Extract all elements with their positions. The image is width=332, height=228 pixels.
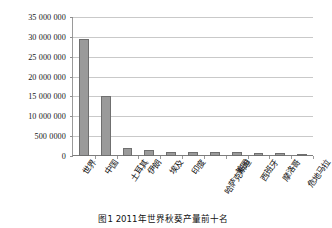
bar xyxy=(188,152,198,156)
bar xyxy=(232,152,242,156)
y-axis-labels: 35 000 00030 000 00025 000 00020 000 000… xyxy=(0,17,70,156)
figure-caption: 图1 2011年世界秋葵产量前十名 xyxy=(0,214,326,224)
x-axis-category-label: 埃及 xyxy=(168,157,185,176)
y-axis-tick-label: 25 000 000 xyxy=(28,52,66,61)
x-axis-category-label: 西班牙 xyxy=(259,157,281,182)
x-axis-category-label: 摩洛哥 xyxy=(281,157,303,182)
bar-series xyxy=(73,17,313,156)
x-axis-tick xyxy=(313,156,314,159)
y-axis-tick-label: 0 xyxy=(62,152,66,161)
y-axis-tick-label: 20 000 000 xyxy=(28,72,66,81)
bar xyxy=(166,152,176,156)
y-axis-tick-label: 15 000 000 xyxy=(28,92,66,101)
bar xyxy=(144,150,154,156)
bar xyxy=(79,39,89,156)
x-axis-labels: 世界中国土耳其伊朗埃及印度哈萨克斯坦美国西班牙摩洛哥危地马拉 xyxy=(73,157,313,209)
x-axis-category-label: 危地马拉 xyxy=(306,157,332,189)
bar xyxy=(275,153,285,156)
x-axis-category-label: 伊朗 xyxy=(146,157,163,176)
bar xyxy=(123,148,133,156)
y-axis-tick-label: 10 000 000 xyxy=(28,112,66,121)
bar xyxy=(254,153,264,156)
y-axis-tick-label: 500 0000 xyxy=(34,132,66,141)
x-axis-category-label: 世界 xyxy=(81,157,98,176)
y-axis-tick-label: 30 000 000 xyxy=(28,32,66,41)
bar xyxy=(101,96,111,156)
x-axis-category-label: 印度 xyxy=(190,157,207,176)
bar xyxy=(210,152,220,156)
y-axis-tick-label: 35 000 000 xyxy=(28,13,66,22)
bar xyxy=(297,154,307,156)
x-axis-category-label: 中国 xyxy=(102,157,119,176)
